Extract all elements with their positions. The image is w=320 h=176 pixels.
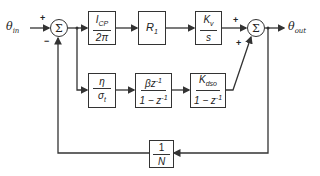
sum1-minus-sign: − bbox=[44, 36, 49, 46]
dso-block: Kdso 1 − z-1 bbox=[190, 73, 226, 108]
sum2-plus-bottom: + bbox=[236, 38, 241, 48]
integrator-block: βz-1 1 − z-1 bbox=[135, 73, 172, 108]
sum2-plus-top: + bbox=[233, 15, 238, 25]
summing-junction-1: Σ bbox=[50, 19, 68, 37]
input-label: θin bbox=[6, 20, 19, 35]
output-label: θout bbox=[288, 20, 306, 35]
vco-block: Kv s bbox=[195, 11, 222, 45]
eta-gain-block: η σt bbox=[88, 73, 116, 108]
charge-pump-block: ICP 2π bbox=[88, 11, 116, 45]
summing-junction-2: Σ bbox=[247, 19, 265, 37]
resistor-block: R1 bbox=[138, 11, 166, 45]
sum1-plus-sign: + bbox=[40, 13, 45, 23]
divider-block: 1 N bbox=[149, 140, 174, 168]
